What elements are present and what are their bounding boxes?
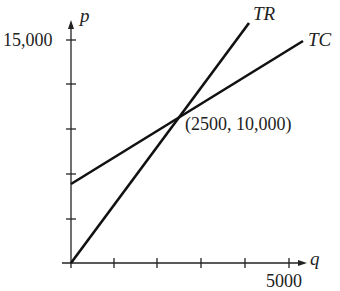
break-even-chart: p 15,000 q 5000 TR TC (2500, 10,000) (0, 0, 340, 291)
tr-line (71, 23, 249, 263)
tc-line (71, 41, 303, 184)
tr-label: TR (253, 3, 276, 24)
tc-label: TC (308, 29, 332, 50)
y-max-label: 15,000 (3, 30, 53, 50)
y-axis-arrow-icon (68, 20, 74, 29)
x-max-label: 5000 (266, 271, 302, 291)
intersection-label: (2500, 10,000) (185, 114, 292, 135)
x-axis-label: q (310, 248, 320, 269)
y-axis-label: p (78, 5, 90, 26)
x-axis-arrow-icon (298, 260, 307, 266)
